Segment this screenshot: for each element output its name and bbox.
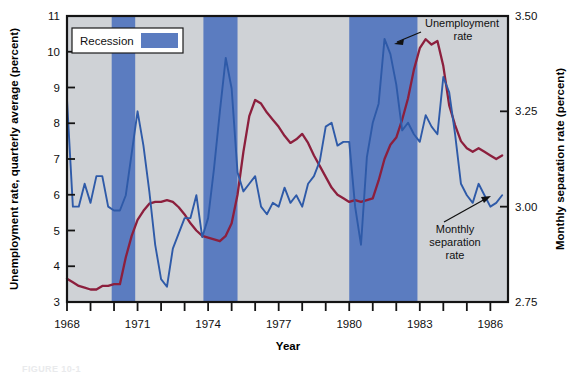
annotation-separation-line-2: separation: [429, 236, 480, 248]
y-tick-label-3: 3: [54, 296, 60, 308]
y-tick-label-5: 5: [54, 225, 60, 237]
x-tick-label-1974: 1974: [195, 318, 221, 330]
x-tick-label-1977: 1977: [266, 318, 292, 330]
annotation-separation-line-1: Monthly: [436, 223, 475, 235]
legend-label: Recession: [80, 35, 134, 47]
y2-tick-label-2.75: 2.75: [515, 296, 537, 308]
x-tick-label-1968: 1968: [54, 318, 80, 330]
x-tick-label-1980: 1980: [336, 318, 362, 330]
y-tick-label-4: 4: [54, 260, 61, 272]
legend-swatch-recession: [141, 33, 178, 48]
y-tick-label-8: 8: [54, 117, 60, 129]
y2-tick-label-3: 3.00: [515, 201, 537, 213]
y2-tick-label-3.5: 3.50: [515, 10, 537, 22]
annotation-separation-line-3: rate: [446, 249, 465, 261]
y2-axis-title: Monthly separation rate (percent): [554, 68, 566, 250]
y-axis-title: Unemployment rate, quarterly average (pe…: [8, 28, 20, 290]
figure-caption: FIGURE 10-1: [22, 364, 81, 372]
unemployment-separation-rate-chart: 345678910112.753.003.253.501968197119741…: [0, 0, 577, 372]
y2-tick-label-3.25: 3.25: [515, 105, 537, 117]
annotation-unemployment-line-2: rate: [454, 30, 473, 42]
figure-container: 345678910112.753.003.253.501968197119741…: [0, 0, 577, 372]
x-axis-title: Year: [276, 340, 301, 352]
annotation-unemployment-line-1: Unemployment: [425, 17, 499, 29]
recession-band-1: [203, 16, 237, 302]
x-tick-label-1986: 1986: [478, 318, 504, 330]
y-tick-label-6: 6: [54, 189, 60, 201]
y-tick-label-10: 10: [47, 46, 60, 58]
x-tick-label-1983: 1983: [407, 318, 433, 330]
y-tick-label-11: 11: [48, 10, 60, 22]
y-tick-label-9: 9: [54, 82, 60, 94]
x-tick-label-1971: 1971: [125, 318, 151, 330]
legend[interactable]: Recession: [72, 28, 183, 53]
y-tick-label-7: 7: [54, 153, 60, 165]
